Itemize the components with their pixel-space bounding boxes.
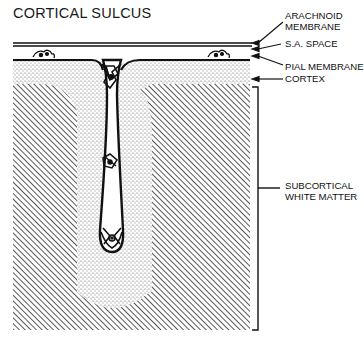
surface-vessel-left: [33, 50, 54, 58]
label-arrows: [252, 22, 283, 82]
label-subcortical-white-matter: SUBCORTICAL WHITE MATTER: [285, 181, 357, 202]
surface-vessel-right: [208, 50, 229, 58]
label-cortex: CORTEX: [285, 74, 325, 85]
label-subarachnoid-space: S.A. SPACE: [285, 39, 338, 50]
label-arachnoid-membrane: ARACHNOID MEMBRANE: [285, 11, 343, 32]
label-pial-membrane: PIAL MEMBRANE: [285, 62, 364, 73]
white-matter-bracket: [252, 87, 280, 330]
cortical-sulcus-diagram: [0, 0, 364, 342]
